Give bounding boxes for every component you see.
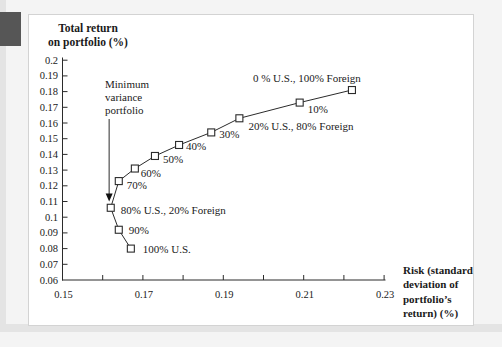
y-tick-label: 0.13 [40,165,58,176]
data-point-marker [208,129,215,136]
data-point-label: 0 % U.S., 100% Foreign [253,72,361,84]
y-tick-label: 0.18 [40,86,58,97]
data-point-marker [151,152,158,159]
data-point-marker [176,141,183,148]
data-point-marker [131,165,138,172]
data-point-label: 70% [127,179,147,191]
x-tick-label: 0.15 [54,289,72,300]
x-axis-title-line: return) (%) [403,306,487,320]
x-axis-title-line: portfolio’s [403,292,487,306]
data-point-label: 10% [308,103,328,115]
y-tick-label: 0.07 [40,259,58,270]
data-point-marker [236,115,243,122]
x-axis-title-line: Risk (standard [403,263,487,277]
data-point-marker [348,87,355,94]
chapter-tab [0,12,21,46]
data-point-marker [127,245,134,252]
min-variance-annotation-line: Minimum [105,78,177,91]
data-point-marker [107,204,114,211]
x-axis-title-line: deviation of [403,277,487,291]
data-point-label: 60% [141,167,161,179]
x-axis-title: Risk (standard deviation of portfolio’s … [403,263,487,321]
y-tick-label: 0.15 [40,133,58,144]
min-variance-annotation: Minimum variance portfolio [105,78,177,117]
y-tick-label: 0.2 [45,55,58,66]
data-point-marker [296,99,303,106]
y-tick-label: 0.08 [40,243,58,254]
data-point-label: 30% [219,128,239,140]
y-axis-title-line: on portfolio (%) [22,36,154,50]
min-variance-annotation-line: portfolio [105,104,177,117]
y-tick-label: 0.06 [40,275,58,286]
y-tick-label: 0.11 [40,196,58,207]
data-point-label: 90% [129,224,149,236]
y-tick-label: 0.17 [40,102,58,113]
y-axis-title-line: Total return [22,22,154,36]
y-tick-label: 0.12 [40,180,58,191]
y-axis-title: Total return on portfolio (%) [22,22,154,49]
y-tick-label: 0.19 [40,70,58,81]
page: 0.20.190.180.170.160.150.140.130.120.110… [0,0,502,347]
x-tick-label: 0.19 [215,289,233,300]
min-variance-arrowhead-icon [106,194,113,202]
data-point-label: 80% U.S., 20% Foreign [121,204,227,216]
data-point-label: 50% [163,153,183,165]
min-variance-annotation-line: variance [105,91,177,104]
data-point-label: 20% U.S., 80% Foreign [248,120,354,132]
data-point-label: 100% U.S. [143,243,191,255]
x-tick-label: 0.23 [376,289,394,300]
data-point-label: 40% [186,140,206,152]
x-tick-label: 0.21 [296,289,314,300]
y-tick-label: 0.16 [40,118,58,129]
y-tick-label: 0.09 [40,227,58,238]
y-tick-label: 0.14 [40,149,59,160]
data-point-marker [115,178,122,185]
y-tick-label: 0.1 [45,212,58,223]
data-point-marker [115,226,122,233]
x-tick-label: 0.17 [135,289,153,300]
